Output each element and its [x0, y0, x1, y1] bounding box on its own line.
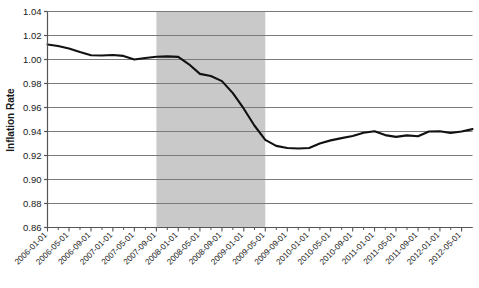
- y-tick-label: 1.00: [23, 54, 42, 65]
- x-axis-tick-labels: 2006-01-012006-05-012006-09-012007-01-01…: [13, 230, 463, 266]
- y-tick-label: 0.86: [23, 222, 42, 233]
- y-tick-label: 0.90: [23, 174, 42, 185]
- chart-container: 1.041.021.000.980.960.940.920.900.880.86…: [0, 0, 479, 288]
- y-tick-label: 0.96: [23, 102, 42, 113]
- recession-band: [156, 12, 265, 228]
- y-axis-tick-labels: 1.041.021.000.980.960.940.920.900.880.86: [23, 6, 42, 233]
- y-axis-label: Inflation Rate: [5, 88, 16, 152]
- y-tick-label: 1.04: [23, 6, 42, 17]
- y-tick-label: 0.92: [23, 150, 42, 161]
- y-tick-label: 0.94: [23, 126, 42, 137]
- shaded-region-group: [156, 12, 265, 228]
- y-tick-label: 0.88: [23, 198, 42, 209]
- y-tick-label: 1.02: [23, 30, 42, 41]
- y-axis-title-group: Inflation Rate: [5, 88, 16, 152]
- y-tick-label: 0.98: [23, 78, 42, 89]
- inflation-rate-line-chart: 1.041.021.000.980.960.940.920.900.880.86…: [0, 0, 479, 288]
